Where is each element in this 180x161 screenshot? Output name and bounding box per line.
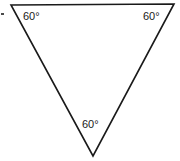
triangle-figure: 60° 60° 60°: [0, 0, 180, 161]
angle-label-bottom: 60°: [82, 119, 99, 130]
angle-label-top-right: 60°: [143, 11, 160, 22]
triangle-shape: [11, 4, 174, 156]
angle-label-top-left: 60°: [23, 11, 40, 22]
dot-mark-icon: [1, 13, 4, 15]
triangle-diagram: [0, 0, 180, 161]
